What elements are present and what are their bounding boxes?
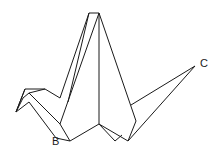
label-b: B	[52, 136, 59, 147]
back-wing-inner-edge	[68, 13, 89, 102]
label-c: C	[200, 58, 208, 69]
origami-crane-drawing	[0, 0, 218, 164]
back-wing-outline	[60, 13, 99, 98]
head-fold-2	[29, 89, 45, 93]
front-wing-outline	[60, 13, 136, 141]
tail-outline	[128, 66, 195, 141]
